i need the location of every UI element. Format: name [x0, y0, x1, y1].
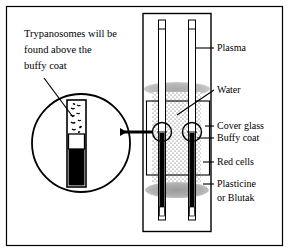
- capillary-tube-left: [159, 20, 166, 220]
- magnified-buffy-coat-band: [69, 134, 85, 149]
- label-cover-glass: Cover glass: [217, 120, 264, 131]
- capillary-tube-right: [189, 20, 196, 220]
- label-blutak: or Blutak: [217, 192, 255, 203]
- annotation-line-3: buffy coat: [24, 60, 67, 71]
- label-water: Water: [217, 84, 241, 95]
- label-buffy-coat: Buffy coat: [217, 132, 260, 143]
- haematocrit-centrifugation-diagram: Trypanosomes will be found above the buf…: [0, 0, 289, 252]
- label-red-cells: Red cells: [217, 156, 254, 167]
- red-cells-column-left: [159, 133, 164, 213]
- red-cells-column-right: [189, 133, 194, 213]
- tube-bottom-tip-right: [189, 207, 194, 216]
- figure-root: Trypanosomes will be found above the buf…: [0, 0, 289, 252]
- annotation-line-2: found above the: [24, 44, 92, 55]
- tube-bottom-tip-left: [159, 207, 164, 216]
- annotation-line-1: Trypanosomes will be: [24, 28, 117, 39]
- label-plasticine: Plasticine: [217, 178, 256, 189]
- apparatus-group: [143, 14, 211, 232]
- magnified-red-cells: [69, 149, 85, 186]
- plasticine-blob: [145, 182, 209, 198]
- trypanosome-zone: [69, 102, 85, 135]
- magnifier-group: [32, 94, 130, 192]
- label-plasma: Plasma: [217, 42, 246, 53]
